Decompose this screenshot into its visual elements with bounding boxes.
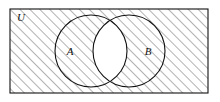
venn-diagram-canvas: U A B <box>0 0 220 102</box>
universe-label: U <box>17 11 26 23</box>
set-b-label: B <box>145 45 152 57</box>
set-a-label: A <box>66 45 74 57</box>
venn-diagram-figure: U A B <box>0 0 220 102</box>
